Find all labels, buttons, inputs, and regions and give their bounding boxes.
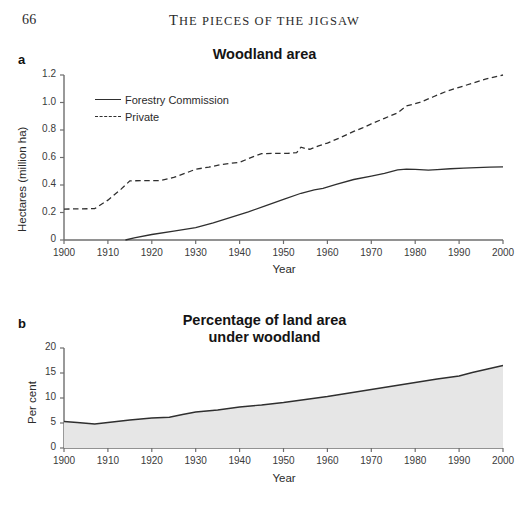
x-axis-tick-label: 1970 (351, 455, 391, 466)
y-axis-tick-label: 15 (20, 366, 56, 377)
y-axis-tick-label: 1.2 (20, 68, 56, 79)
x-axis-tick-label: 2000 (483, 455, 523, 466)
series-line-private (64, 75, 503, 209)
panel-b-x-axis-title: Year (224, 472, 344, 484)
y-axis-tick-label: 10 (20, 391, 56, 402)
x-axis-tick-label: 1920 (132, 247, 172, 258)
x-axis-tick-label: 1960 (307, 455, 347, 466)
x-axis-tick-label: 1980 (395, 247, 435, 258)
panel-b: b Percentage of land area under woodland… (0, 292, 529, 509)
y-axis-tick-label: 0 (20, 233, 56, 244)
x-axis-tick-label: 1930 (176, 247, 216, 258)
y-axis-tick-label: 1.0 (20, 96, 56, 107)
x-axis-tick-label: 1940 (220, 247, 260, 258)
area-fill (64, 366, 503, 449)
panel-a-x-axis-title: Year (224, 263, 344, 275)
x-axis-tick-label: 1900 (44, 247, 84, 258)
series-line-forestry-commission (125, 167, 503, 240)
y-axis-tick-label: 0.6 (20, 151, 56, 162)
x-axis-tick-label: 1950 (264, 247, 304, 258)
y-axis-tick-label: 20 (20, 341, 56, 352)
y-axis-tick-label: 5 (20, 416, 56, 427)
x-axis-tick-label: 1960 (307, 247, 347, 258)
y-axis-tick-label: 0.2 (20, 206, 56, 217)
y-axis-tick-label: 0.4 (20, 178, 56, 189)
x-axis-tick-label: 1950 (264, 455, 304, 466)
x-axis-tick-label: 1990 (439, 455, 479, 466)
x-axis-tick-label: 1920 (132, 455, 172, 466)
x-axis-tick-label: 1990 (439, 247, 479, 258)
x-axis-tick-label: 1970 (351, 247, 391, 258)
x-axis-tick-label: 1930 (176, 455, 216, 466)
panel-a: a Woodland area Hectares (million ha) Fo… (0, 0, 529, 290)
x-axis-tick-label: 1980 (395, 455, 435, 466)
x-axis-tick-label: 2000 (483, 247, 523, 258)
y-axis-tick-label: 0.8 (20, 123, 56, 134)
x-axis-tick-label: 1910 (88, 455, 128, 466)
y-axis-tick-label: 0 (20, 441, 56, 452)
x-axis-tick-label: 1940 (220, 455, 260, 466)
book-page: 66 THE PIECES OF THE JIGSAW a Woodland a… (0, 0, 529, 509)
x-axis-tick-label: 1910 (88, 247, 128, 258)
x-axis-tick-label: 1900 (44, 455, 84, 466)
